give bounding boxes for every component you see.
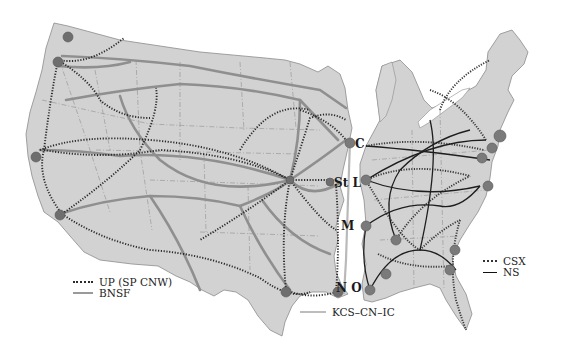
hub-philadelphia <box>487 143 497 153</box>
legend-bnsf: BNSF <box>73 287 130 299</box>
hub-jacksonville <box>445 265 455 275</box>
eastern-us-map <box>360 30 528 330</box>
hub-new-york <box>494 130 506 142</box>
hub-mobile <box>381 269 391 279</box>
hub-memphis <box>361 221 371 231</box>
city-label-memphis: M <box>341 219 354 233</box>
hub-baltimore <box>477 153 487 163</box>
hub-new-orleans-e <box>365 285 375 295</box>
hub-houston <box>281 287 291 297</box>
legend-ns: NS <box>483 266 519 278</box>
hub-st-louis-w <box>326 178 334 186</box>
legend-bnsf-label: BNSF <box>99 287 130 299</box>
up-dotted-swatch-icon <box>73 281 93 283</box>
hub-portland <box>53 57 63 67</box>
city-label-st-louis: St L <box>334 176 361 190</box>
hub-norfolk <box>483 181 493 191</box>
legend-kcs-label: KCS–CN–IC <box>332 306 395 318</box>
hub-charleston <box>450 245 460 255</box>
hub-seattle <box>63 32 73 42</box>
legend-kcs-cn-ic: KCS–CN–IC <box>300 306 395 318</box>
railroad-map: C St L M N O <box>0 0 570 355</box>
legend-ns-label: NS <box>503 266 519 278</box>
bnsf-solid-swatch-icon <box>73 292 93 294</box>
hub-atlanta <box>391 235 401 245</box>
csx-dotted-swatch-icon <box>483 260 497 262</box>
hub-los-angeles <box>55 210 65 220</box>
hub-san-francisco <box>31 152 41 162</box>
city-label-chicago: C <box>355 137 365 151</box>
hub-chicago <box>345 138 355 148</box>
kcs-solid-swatch-icon <box>300 311 326 313</box>
city-label-new-orleans: N O <box>336 281 362 295</box>
ns-solid-swatch-icon <box>483 272 497 273</box>
hub-st-louis-e <box>361 175 371 185</box>
hub-kansas-city <box>286 176 294 184</box>
